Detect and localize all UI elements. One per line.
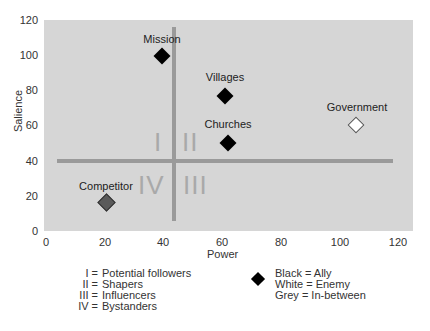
x-tick: 80 — [266, 236, 296, 248]
x-tick: 40 — [148, 236, 178, 248]
x-tick: 60 — [207, 236, 237, 248]
quadrant-label-i: I — [154, 127, 162, 158]
legend-diamond-icon — [251, 272, 265, 286]
point-label-competitor: Competitor — [79, 180, 133, 192]
x-tick: 0 — [31, 236, 61, 248]
legend-key: IV = — [76, 301, 102, 312]
vertical-divider — [172, 27, 176, 221]
x-tick: 100 — [325, 236, 355, 248]
quadrant-label-iii: III — [183, 170, 208, 201]
horizontal-divider — [57, 159, 393, 163]
x-axis-label: Power — [207, 248, 238, 260]
quadrant-label-iv: IV — [138, 170, 165, 201]
y-axis-label: Salience — [12, 81, 24, 141]
y-tick: 120 — [8, 14, 38, 26]
point-label-churches: Churches — [204, 118, 251, 130]
legend-text: Bystanders — [102, 301, 157, 312]
point-label-villages: Villages — [206, 71, 244, 83]
point-label-government: Government — [327, 101, 388, 113]
y-tick: 40 — [8, 155, 38, 167]
y-tick: 100 — [8, 49, 38, 61]
point-label-mission: Mission — [143, 33, 180, 45]
quadrant-label-ii: II — [182, 127, 198, 158]
x-tick: 120 — [383, 236, 413, 248]
legend-text: Grey = In-between — [275, 290, 366, 301]
x-tick: 20 — [90, 236, 120, 248]
color-legend: Black = Ally White = Enemy Grey = In-bet… — [275, 268, 366, 301]
y-tick: 20 — [8, 190, 38, 202]
quadrant-legend: I =Potential followers II =Shapers III =… — [76, 268, 191, 312]
